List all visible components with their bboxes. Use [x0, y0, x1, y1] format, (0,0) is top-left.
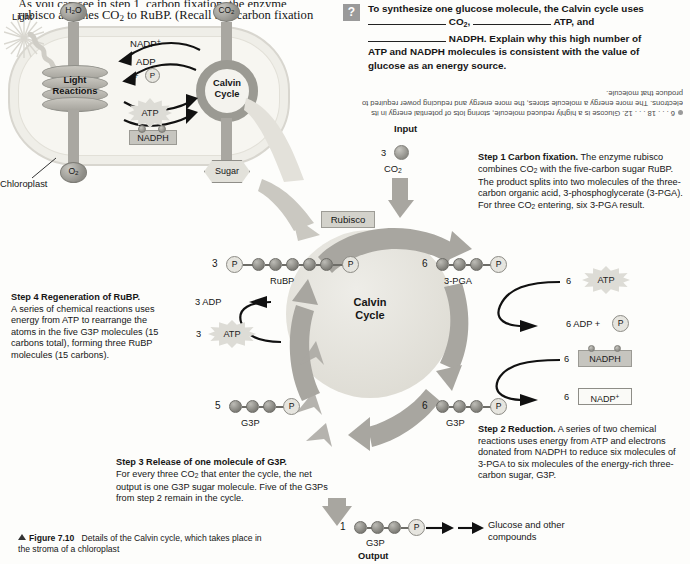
answer-blank-2[interactable] [473, 24, 551, 25]
rubisco-enzyme-box: Rubisco [321, 211, 375, 228]
question-blank3-label: NADPH. Explain why this high number of [449, 33, 642, 44]
answer-body: 6 . . . 18 . . . 12. Glucose is a highly… [362, 89, 683, 118]
carbon-atom [269, 258, 282, 271]
answer-bullet-icon [678, 111, 683, 116]
adp-regeneration-label: 3 ADP [195, 297, 221, 307]
g3p-left-chain: 5 P G3P [215, 398, 325, 416]
output-label: Output [358, 551, 388, 561]
output-count: 1 [340, 521, 346, 532]
output-to-product-arrows [424, 520, 488, 542]
step-4-text: Step 4 Regeneration of RuBP.A series of … [11, 292, 169, 362]
phosphate-group: P [283, 398, 300, 415]
nadp-plus-box-step2: NADP+ [578, 388, 632, 405]
step-4-body: A series of chemical reactions uses ener… [11, 304, 158, 360]
nadph-count-step2: 6 [564, 354, 569, 364]
carbon-atom [453, 400, 466, 413]
g3p-right-count: 6 [422, 400, 428, 411]
step-3-body: For every three CO2 that enter the cycle… [116, 469, 328, 504]
rubp-count: 3 [212, 258, 218, 269]
triangle-up-icon [18, 534, 26, 540]
carbon-atom [320, 258, 333, 271]
carbon-atom [229, 400, 242, 413]
carbon-atom [436, 258, 449, 271]
adp-label-overview: ADP [136, 56, 156, 67]
atp-starburst-overview: ATP [128, 98, 172, 128]
question-line-1: To synthesize one glucose molecule, the … [368, 3, 644, 14]
pga-molecule-chain: 6 P 3-PGA [422, 256, 532, 274]
overview-to-cycle-arrow [258, 175, 338, 245]
rubp-molecule-chain: 3 P P RuBP [212, 256, 364, 274]
chloroplast-leader-line [28, 156, 58, 180]
co2-label-overview: CO2 [213, 5, 240, 15]
g3p-left-name-label: G3P [241, 418, 260, 428]
atp-to-adp-curve [484, 276, 564, 334]
phosphate-released: P [612, 315, 629, 332]
pga-name-label: 3-PGA [444, 276, 472, 286]
electron-dot-1 [138, 125, 146, 133]
atp-starburst-step4: ATP [208, 320, 256, 348]
question-line-5: glucose as an energy source. [368, 60, 506, 71]
carbon-atom [354, 521, 367, 534]
g3p-left-count: 5 [215, 400, 221, 411]
rubp-name-label: RuBP [270, 276, 294, 286]
step-2-title: Step 2 Reduction. [478, 424, 556, 434]
output-g3p-label: G3P [366, 538, 385, 548]
carbon-atom [453, 258, 466, 271]
step-1-title: Step 1 Carbon fixation. [478, 152, 578, 162]
phosphate-group: P [226, 256, 243, 273]
phosphate-overview: P [145, 68, 160, 83]
carbon-atom [263, 400, 276, 413]
pga-count: 6 [422, 258, 428, 269]
electron-dot-2 [158, 125, 166, 133]
co2-input-arrow-overview [221, 22, 232, 64]
g3p-right-chain: 6 P G3P [422, 398, 532, 416]
adp-result-step2: 6 ADP + [566, 319, 600, 329]
carbon-atom [470, 400, 483, 413]
carbon-atom [388, 521, 401, 534]
carbon-atom [286, 258, 299, 271]
atp-starburst-step2: ATP [582, 266, 630, 294]
chloroplast-overview-diagram: Light H2O Light Reactions O2 CO2 Calvin … [0, 0, 300, 205]
carbon-atom [252, 258, 265, 271]
input-count: 3 [381, 148, 386, 158]
o2-label: O2 [60, 166, 87, 176]
electron-dot-1-step2 [588, 345, 595, 352]
light-reactions-label: Light Reactions [42, 74, 108, 96]
calvin-cycle-label-overview: Calvin Cycle [196, 78, 258, 99]
phosphate-group: P [490, 256, 507, 273]
o2-output-arrow [68, 110, 79, 164]
question-box: ? To synthesize one glucose molecule, th… [343, 2, 687, 72]
inverted-answer-text: 6 . . . 18 . . . 12. Glucose is a highly… [353, 88, 683, 118]
overview-connector-shape [244, 96, 306, 182]
step-3-title: Step 3 Release of one molecule of G3P. [116, 457, 287, 467]
phosphate-group: P [342, 256, 359, 273]
nadp-plus-text: NADP+ [591, 394, 620, 404]
h2o-label: H2O [60, 5, 87, 15]
nadph-box-overview: NADPH [129, 130, 177, 145]
carbon-atom [436, 400, 449, 413]
phosphate-group: P [408, 519, 425, 536]
electron-dot-2-step2 [614, 345, 621, 352]
step-1-text: Step 1 Carbon fixation. The enzyme rubis… [478, 152, 683, 213]
product-label: Glucose and other compounds [488, 519, 565, 543]
question-line-4: ATP and NADPH molecules is consistent wi… [368, 46, 639, 57]
carbon-atom [470, 258, 483, 271]
question-blank2-label: ATP, and [553, 16, 594, 27]
answer-blank-3[interactable] [368, 41, 446, 42]
carbon-atom [303, 258, 316, 271]
g3p-right-name-label: G3P [446, 418, 465, 428]
question-mark-icon: ? [343, 4, 360, 21]
answer-blank-1[interactable] [368, 24, 446, 25]
plus-sign-overview: + [133, 70, 139, 81]
step-2-text: Step 2 Reduction. A series of two chemic… [478, 424, 685, 482]
nadp-plus-label-overview: NADP+ [130, 38, 161, 49]
atp-regeneration-count: 3 [196, 329, 201, 339]
question-blank1-label: CO2, [449, 16, 471, 27]
input-label: Input [394, 123, 417, 134]
co2-input-label: CO2 [384, 163, 402, 174]
question-text: To synthesize one glucose molecule, the … [368, 2, 687, 72]
step-3-text: Step 3 Release of one molecule of G3P.Fo… [116, 457, 331, 505]
atp-count-step2: 6 [566, 276, 571, 286]
step-4-title: Step 4 Regeneration of RuBP. [11, 292, 140, 302]
figure-caption: Figure 7.10 Details of the Calvin cycle,… [18, 533, 268, 556]
